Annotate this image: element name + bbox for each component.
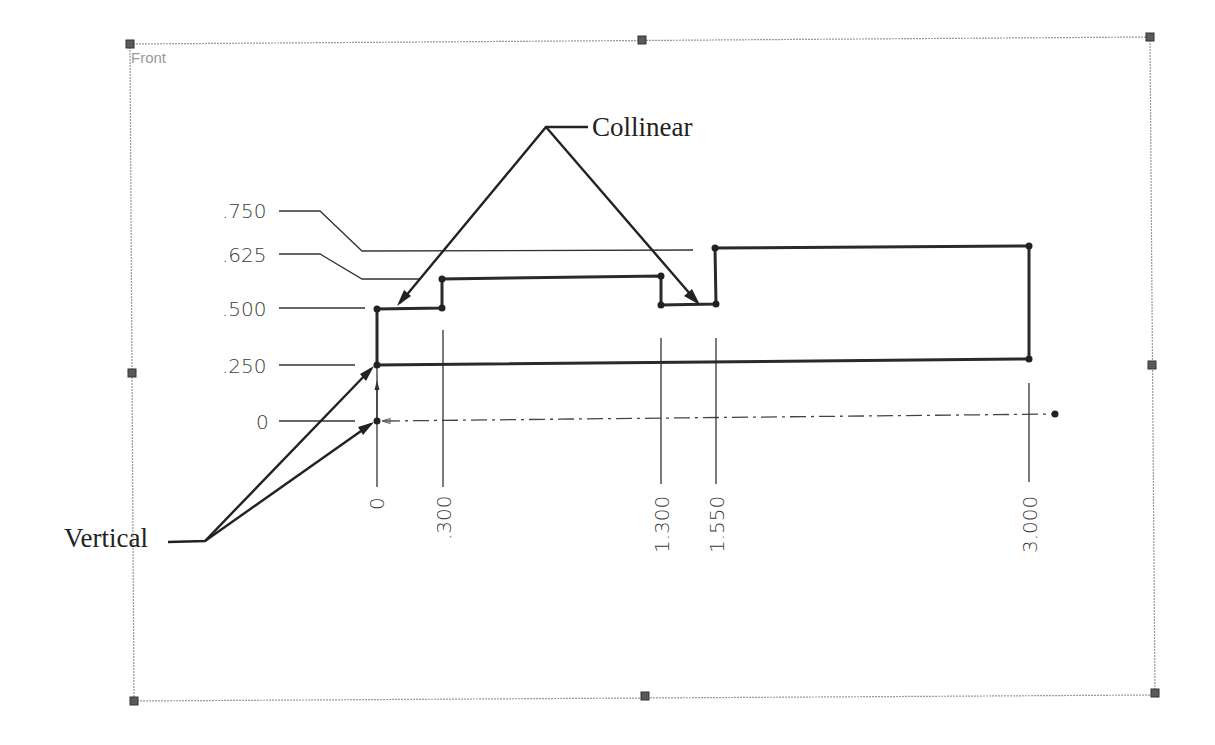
sketch-canvas: Front .750 .625 .500 .250 0 0 .300 1.300…	[0, 0, 1215, 745]
vertical-callout: Vertical	[64, 366, 374, 553]
handle-bottom-mid[interactable]	[641, 692, 649, 700]
ordinate-leader-750[interactable]	[279, 211, 693, 251]
vertex[interactable]	[712, 245, 719, 252]
ordinate-label-x-1550[interactable]: 1.550	[705, 496, 729, 553]
vertex[interactable]	[658, 302, 665, 309]
view-label: Front	[131, 49, 167, 66]
ordinate-label-625[interactable]: .625	[222, 243, 267, 267]
vertex[interactable]	[439, 276, 446, 283]
origin-point[interactable]	[374, 418, 381, 425]
handle-top-mid[interactable]	[638, 36, 646, 44]
handle-mid-left[interactable]	[128, 369, 136, 377]
vertex[interactable]	[1026, 356, 1033, 363]
origin-y-arrowhead-icon	[375, 380, 380, 390]
handle-bottom-right[interactable]	[1151, 689, 1159, 697]
ordinate-label-250[interactable]: .250	[222, 354, 267, 378]
ordinate-label-500[interactable]: .500	[222, 297, 267, 321]
ordinate-label-x-300[interactable]: .300	[432, 495, 456, 540]
ordinate-label-x-0[interactable]: 0	[365, 497, 389, 510]
vertical-label: Vertical	[64, 523, 148, 553]
handle-mid-right[interactable]	[1148, 361, 1156, 369]
horizontal-ordinate-labels: 0 .300 1.300 1.550 3.000	[365, 495, 1042, 553]
origin-indicator	[374, 380, 391, 425]
construction-centerline[interactable]	[384, 414, 1055, 421]
vertical-leader-line-2	[205, 424, 371, 541]
vertical-arrowhead-lower-icon	[358, 422, 374, 435]
vertex[interactable]	[439, 305, 446, 312]
vertical-ordinate-lines	[279, 211, 693, 421]
ordinate-label-x-1300[interactable]: 1.300	[650, 496, 674, 553]
horizontal-ordinate-lines	[377, 330, 1029, 487]
sketch-profile[interactable]	[377, 246, 1029, 365]
handle-bottom-left[interactable]	[130, 697, 138, 705]
handle-top-right[interactable]	[1146, 33, 1154, 41]
ordinate-label-0[interactable]: 0	[256, 410, 269, 434]
vertex[interactable]	[713, 301, 720, 308]
vertex[interactable]	[1026, 243, 1033, 250]
vertex[interactable]	[374, 362, 381, 369]
ordinate-leader-625[interactable]	[279, 254, 420, 279]
handle-top-left[interactable]	[126, 40, 134, 48]
vertex[interactable]	[374, 306, 381, 313]
centerline-endpoint[interactable]	[1052, 411, 1059, 418]
vertex[interactable]	[658, 273, 665, 280]
ordinate-label-750[interactable]: .750	[222, 199, 267, 223]
vertical-leader-line	[168, 369, 371, 542]
vertical-ordinate-labels: .750 .625 .500 .250 0	[222, 199, 269, 434]
collinear-label: Collinear	[592, 112, 692, 142]
ordinate-label-x-3000[interactable]: 3.000	[1018, 496, 1042, 553]
